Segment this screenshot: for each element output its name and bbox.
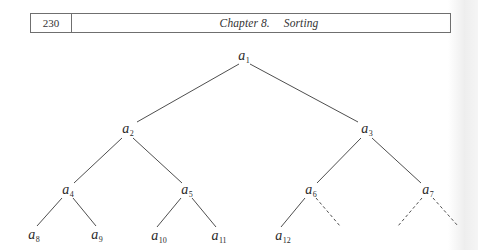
- node-variable: a: [361, 121, 368, 136]
- dashed-edge-a6-empty: [316, 198, 340, 226]
- node-variable: a: [211, 228, 218, 243]
- tree-edge-a4-a8: [37, 198, 62, 226]
- tree-node-a2: a2: [122, 122, 134, 138]
- node-variable: a: [122, 121, 129, 136]
- tree-edge-a1-a2: [137, 64, 239, 122]
- node-variable: a: [275, 228, 282, 243]
- tree-node-a7: a7: [422, 183, 434, 199]
- tree-edge-a3-a7: [372, 138, 421, 183]
- tree-edge-a5-a11: [192, 198, 216, 227]
- node-index: 6: [313, 190, 317, 199]
- tree-edge-a5-a10: [157, 198, 181, 227]
- tree-node-a10: a10: [151, 229, 167, 245]
- tree-edge-a1-a3: [250, 64, 358, 122]
- node-variable: a: [305, 182, 312, 197]
- dashed-edge-a7-empty: [433, 198, 458, 226]
- tree-node-a1: a1: [238, 49, 250, 65]
- node-variable: a: [238, 48, 245, 63]
- node-index: 3: [369, 129, 373, 138]
- tree-node-a5: a5: [181, 183, 193, 199]
- tree-edge-a2-a4: [74, 138, 122, 183]
- node-index: 10: [159, 236, 167, 245]
- tree-node-a6: a6: [305, 183, 317, 199]
- tree-node-a8: a8: [28, 228, 40, 244]
- tree-node-a4: a4: [62, 183, 74, 199]
- node-index: 9: [99, 235, 103, 244]
- tree-node-a11: a11: [211, 229, 226, 245]
- tree-node-a3: a3: [361, 122, 373, 138]
- node-variable: a: [422, 182, 429, 197]
- tree-node-a9: a9: [91, 228, 103, 244]
- tree-edge-a3-a6: [317, 138, 361, 183]
- node-variable: a: [91, 227, 98, 242]
- node-index: 4: [70, 190, 74, 199]
- node-index: 2: [130, 129, 134, 138]
- node-index: 5: [189, 190, 193, 199]
- node-variable: a: [28, 227, 35, 242]
- node-index: 12: [283, 236, 291, 245]
- node-index: 1: [246, 56, 250, 65]
- dashed-edge-a7-empty: [398, 198, 422, 226]
- node-index: 7: [430, 190, 434, 199]
- node-index: 11: [219, 236, 227, 245]
- tree-edge-a2-a5: [133, 138, 182, 183]
- tree-edge-a6-a12: [281, 198, 305, 227]
- node-variable: a: [181, 182, 188, 197]
- tree-node-a12: a12: [275, 229, 291, 245]
- heap-tree-diagram: [0, 0, 478, 250]
- node-variable: a: [62, 182, 69, 197]
- node-index: 8: [36, 235, 40, 244]
- tree-edge-a4-a9: [73, 198, 96, 226]
- node-variable: a: [151, 228, 158, 243]
